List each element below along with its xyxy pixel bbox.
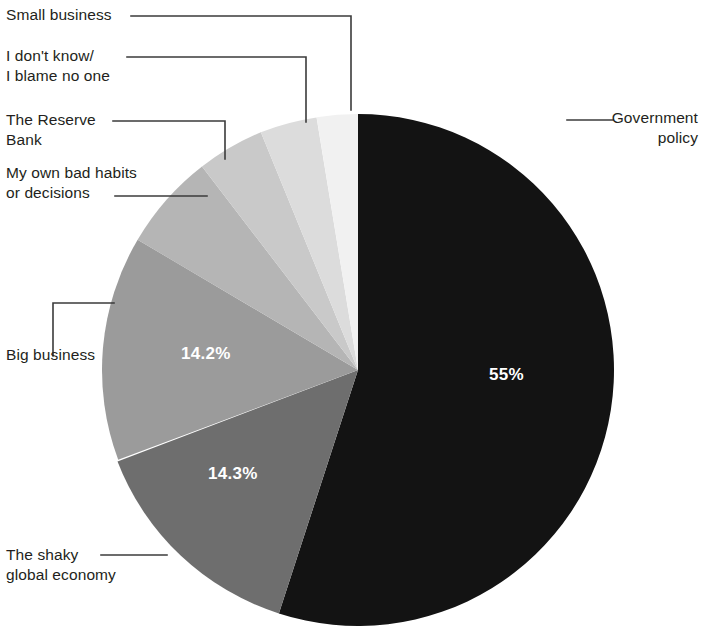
callout-my-own-bad-habits: My own bad habits or decisions <box>6 163 137 203</box>
slice-value-government-policy: 55% <box>489 365 524 385</box>
callout-i-dont-know: I don't know/ I blame no one <box>6 46 110 86</box>
pie-chart: Small business I don't know/ I blame no … <box>0 0 704 635</box>
callout-big-business: Big business <box>6 345 95 365</box>
slice-value-shaky-global-economy: 14.3% <box>208 464 258 484</box>
leader-line-i-dont-know <box>127 57 306 122</box>
leader-line-reserve-bank <box>113 121 225 159</box>
leader-line-small-business <box>131 16 351 110</box>
slice-value-big-business: 14.2% <box>181 344 231 364</box>
callout-small-business: Small business <box>6 5 112 25</box>
callout-shaky-global-economy: The shaky global economy <box>6 545 116 585</box>
pie-chart-graphic <box>0 0 704 635</box>
pie-slices <box>102 114 614 626</box>
callout-reserve-bank: The Reserve Bank <box>6 110 96 150</box>
callout-government-policy: Government policy <box>556 108 698 148</box>
